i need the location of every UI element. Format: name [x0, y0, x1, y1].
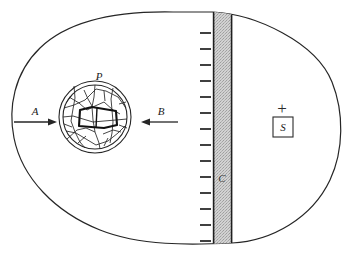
hatched-vertical-band-C [213, 10, 232, 245]
plus-icon: + [277, 99, 287, 118]
band-label-C: C [218, 172, 226, 184]
arrow-a-label: A [31, 105, 39, 117]
boxed-S-marker: S [273, 117, 293, 137]
diagram-canvas: A B P C + S [0, 0, 347, 259]
s-box-label: S [280, 121, 286, 133]
figure-root: A B P C + S [0, 0, 347, 259]
fractured-circle-P [59, 81, 131, 153]
band-fill [213, 10, 232, 245]
circle-label-P: P [95, 70, 103, 82]
central-polygon-divider [96, 108, 97, 128]
arrow-b-label: B [158, 105, 165, 117]
